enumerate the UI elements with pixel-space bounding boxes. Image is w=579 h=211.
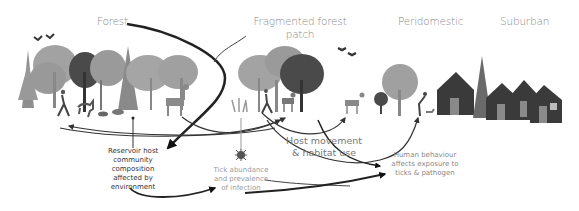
- zone-label-fragmented-line1: Fragmented forest: [240, 15, 360, 28]
- rodent-icon: [98, 112, 108, 117]
- house-icon: [437, 72, 474, 115]
- zone-label-fragmented: Fragmented forest patch: [240, 15, 360, 41]
- annotation-human: Human behaviour affects exposure to tick…: [390, 151, 460, 178]
- annotation-line: of infection: [213, 184, 269, 193]
- bird-icon: [338, 48, 356, 55]
- annotation-line: Host movement: [286, 135, 362, 147]
- tick-icon: [235, 149, 247, 161]
- deer-icon: [345, 93, 365, 115]
- annotation-tick: Tick abundance and prevalence of infecti…: [213, 166, 269, 193]
- human-walker-icon: [58, 90, 69, 116]
- annotation-line: & habitat use: [286, 147, 362, 159]
- annotation-line: ticks & pathogen: [390, 169, 460, 178]
- annotation-line: Tick abundance: [213, 166, 269, 175]
- annotation-reservoir: Reservoir host community composition aff…: [108, 147, 158, 192]
- annotation-line: composition: [108, 165, 158, 174]
- suburban-houses: [437, 56, 562, 123]
- annotation-line: Human behaviour: [390, 151, 460, 160]
- annotation-line: affects exposure to: [390, 160, 460, 169]
- human-walker-icon: [262, 89, 272, 113]
- annotation-host-movement: Host movement & habitat use: [286, 135, 362, 158]
- zone-label-fragmented-line2: patch: [240, 28, 360, 41]
- grass-icon: [232, 98, 247, 112]
- zone-label-suburban: Suburban: [500, 15, 549, 27]
- annotation-line: Reservoir host: [108, 147, 158, 156]
- peridomestic-scene: [345, 64, 434, 116]
- annotation-line: affected by: [108, 174, 158, 183]
- zone-label-peridomestic: Peridomestic: [398, 15, 463, 27]
- deer-icon: [282, 93, 296, 113]
- house-icon: [530, 85, 562, 123]
- zone-label-forest: Forest: [97, 15, 128, 27]
- fragmented-trees: [232, 46, 324, 113]
- annotation-line: environment: [108, 183, 158, 192]
- bird-icon: [34, 34, 54, 40]
- human-walker-icon: [419, 92, 427, 116]
- annotation-line: community: [108, 156, 158, 165]
- dog-icon: [426, 109, 434, 112]
- annotation-line: and prevalence: [213, 175, 269, 184]
